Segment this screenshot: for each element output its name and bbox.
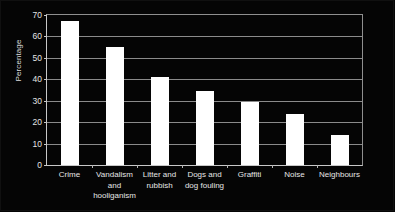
bar	[331, 135, 349, 165]
y-tick-mark	[44, 79, 47, 80]
x-tick-mark	[137, 165, 138, 168]
bar	[286, 114, 304, 165]
y-tick-label: 10	[33, 139, 42, 149]
x-tick-mark	[182, 165, 183, 168]
y-tick-label: 50	[33, 53, 42, 63]
y-axis-title: Percentage	[14, 21, 23, 101]
bar-chart-figure: Percentage 010203040506070 CrimeVandalis…	[0, 0, 395, 212]
y-tick-mark	[44, 144, 47, 145]
x-tick-label: Neighbours	[309, 170, 371, 181]
y-tick-label: 70	[33, 10, 42, 20]
bar	[106, 47, 124, 165]
y-tick-label: 20	[33, 117, 42, 127]
y-tick-mark	[44, 101, 47, 102]
x-tick-mark	[272, 165, 273, 168]
y-tick-label: 40	[33, 74, 42, 84]
gridline	[47, 79, 362, 80]
y-tick-mark	[44, 36, 47, 37]
y-tick-label: 0	[37, 160, 42, 170]
y-tick-label: 30	[33, 96, 42, 106]
y-tick-mark	[44, 165, 47, 166]
gridline	[47, 58, 362, 59]
y-tick-mark	[44, 58, 47, 59]
bar	[61, 21, 79, 165]
x-tick-mark	[317, 165, 318, 168]
bar	[196, 91, 214, 165]
y-tick-mark	[44, 122, 47, 123]
bar	[241, 102, 259, 165]
y-tick-mark	[44, 15, 47, 16]
gridline	[47, 36, 362, 37]
bar	[151, 77, 169, 165]
plot-area: 010203040506070 CrimeVandalismandhooliga…	[46, 14, 363, 166]
x-tick-mark	[227, 165, 228, 168]
x-tick-mark	[92, 165, 93, 168]
y-tick-label: 60	[33, 31, 42, 41]
